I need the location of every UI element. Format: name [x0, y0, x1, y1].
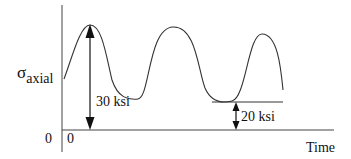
y-origin-label: 0: [45, 131, 52, 146]
min-stress-arrowhead-down: [233, 121, 240, 130]
x-axis-label: Time: [306, 140, 335, 155]
max-stress-arrowhead-down: [86, 117, 95, 130]
stress-waveform: [64, 25, 283, 102]
y-axis-symbol: σ: [17, 63, 26, 82]
x-origin-label: 0: [67, 131, 74, 146]
min-stress-label: 20 ksi: [241, 109, 275, 124]
min-stress-arrowhead-up: [233, 102, 240, 111]
y-axis-label: σaxial: [17, 63, 53, 86]
y-axis-subscript: axial: [26, 71, 53, 86]
max-stress-label: 30 ksi: [96, 94, 130, 109]
stress-time-diagram: σaxial 30 ksi 20 ksi 0 0 Time: [0, 0, 351, 159]
